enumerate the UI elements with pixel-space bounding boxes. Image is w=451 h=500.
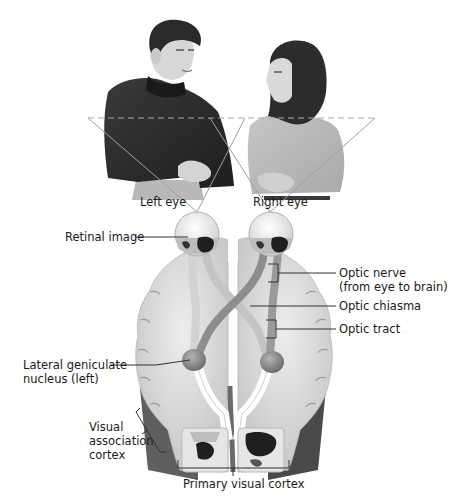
lgn-left xyxy=(182,349,206,371)
label-right-eye: Right eye xyxy=(253,195,308,209)
label-visual-association-cortex: Visual association cortex xyxy=(89,420,154,462)
label-optic-chiasma: Optic chiasma xyxy=(339,299,421,313)
label-retinal-image: Retinal image xyxy=(65,230,144,244)
label-left-eye: Left eye xyxy=(140,195,186,209)
left-eyeball xyxy=(175,212,219,256)
label-lateral-geniculate-nucleus: Lateral geniculate nucleus (left) xyxy=(23,358,127,386)
lgn-right xyxy=(260,351,284,373)
woman-figure xyxy=(248,41,344,200)
label-primary-visual-cortex: Primary visual cortex xyxy=(183,477,305,491)
brain xyxy=(136,238,332,480)
man-figure xyxy=(104,20,234,200)
visual-pathway-diagram: Left eye Right eye Retinal image Optic n… xyxy=(0,0,451,500)
right-eyeball xyxy=(249,212,293,256)
label-optic-nerve: Optic nerve (from eye to brain) xyxy=(339,266,448,294)
diagram-artwork xyxy=(0,0,451,500)
label-optic-tract: Optic tract xyxy=(339,322,400,336)
